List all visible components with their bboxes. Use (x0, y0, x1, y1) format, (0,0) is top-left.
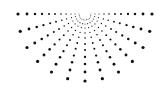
dot (70, 13, 71, 14)
dot (90, 15, 91, 16)
dot (72, 20, 73, 21)
dot (134, 42, 137, 45)
dot (105, 50, 107, 52)
dot (98, 17, 99, 18)
dot (88, 27, 89, 28)
dot (103, 18, 104, 19)
dot (86, 19, 87, 20)
dot (74, 13, 75, 14)
sunburst-dot-graphic (0, 0, 167, 96)
dot (94, 13, 95, 14)
dot (59, 38, 61, 40)
dot (98, 27, 99, 28)
dot (48, 13, 50, 15)
dot (69, 39, 71, 41)
dot (19, 30, 22, 33)
dot (105, 34, 107, 36)
dot (71, 27, 72, 28)
dot (82, 23, 83, 24)
dot (16, 12, 19, 15)
dot (113, 63, 116, 66)
dot (41, 13, 43, 15)
dot (34, 13, 37, 16)
dot (119, 22, 121, 24)
dot (75, 16, 76, 17)
dot (68, 23, 69, 24)
dot (99, 69, 102, 72)
dot (114, 43, 116, 45)
dot (92, 21, 93, 22)
dot (150, 12, 153, 15)
dot (96, 34, 98, 36)
dot (105, 25, 107, 27)
dot (125, 24, 127, 26)
dot (42, 24, 44, 26)
dot (101, 77, 104, 80)
dot (84, 71, 87, 74)
dot (62, 50, 64, 52)
dot (61, 19, 63, 21)
dot (79, 15, 80, 16)
dot (125, 54, 128, 57)
dot (84, 56, 86, 58)
dot (53, 31, 55, 33)
dot (141, 46, 144, 49)
dot (63, 34, 65, 36)
dot (91, 26, 92, 27)
dot (40, 38, 43, 41)
dot (97, 20, 98, 21)
dot (85, 20, 86, 21)
dot (148, 30, 151, 33)
dot (114, 13, 116, 15)
dot (101, 23, 102, 24)
dot (120, 13, 122, 15)
dot (48, 48, 51, 51)
dot (84, 49, 86, 51)
dot (36, 60, 39, 63)
dot (84, 43, 86, 45)
dot (58, 28, 60, 30)
dot (69, 69, 72, 72)
dot (79, 14, 80, 15)
dot (110, 28, 112, 30)
dot (71, 17, 72, 18)
dot (79, 22, 80, 23)
dot (75, 30, 76, 31)
dot (83, 79, 86, 82)
dot (76, 18, 77, 19)
dot (91, 14, 92, 15)
dot (90, 17, 91, 18)
dot (43, 54, 46, 57)
dot (99, 39, 101, 41)
dot (80, 18, 81, 19)
dot (49, 22, 51, 24)
dot (74, 23, 75, 24)
dot (84, 23, 85, 24)
dot (79, 32, 80, 33)
dot (81, 27, 82, 28)
dot (107, 19, 109, 21)
dot (73, 54, 75, 56)
dot (115, 31, 117, 33)
dot (89, 32, 90, 33)
dot (119, 48, 122, 51)
dot (108, 13, 110, 15)
dot (55, 63, 58, 66)
dot (93, 18, 94, 19)
dot (89, 18, 90, 19)
dot (127, 38, 130, 41)
dot (71, 61, 74, 64)
dot (127, 13, 129, 15)
dot (75, 48, 77, 50)
dot (82, 19, 83, 20)
dot (63, 25, 65, 27)
dot (113, 21, 115, 23)
dot (55, 21, 57, 23)
dot (121, 34, 123, 36)
dot (53, 43, 55, 45)
dot (97, 61, 100, 64)
dot (87, 23, 88, 24)
dot (92, 42, 94, 44)
dot (47, 34, 49, 36)
dot (84, 37, 86, 39)
